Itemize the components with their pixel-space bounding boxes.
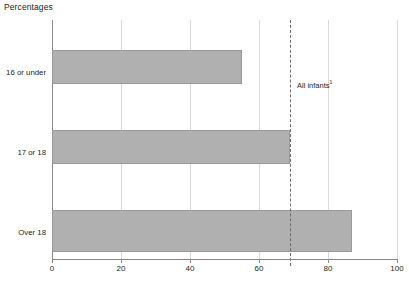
bar-track-over-18 bbox=[52, 210, 397, 252]
plot-area: All infants1 bbox=[52, 20, 397, 260]
category-label-16-or-under: 16 or under bbox=[6, 68, 46, 77]
xtick-label-20: 20 bbox=[117, 264, 126, 273]
category-label-17-or-18: 17 or 18 bbox=[17, 148, 46, 157]
x-axis-tick-labels: 0 20 40 60 80 100 bbox=[52, 264, 397, 280]
xtick-label-40: 40 bbox=[186, 264, 195, 273]
bar-16-or-under bbox=[52, 50, 242, 84]
x-axis-line bbox=[52, 259, 398, 260]
tickmark-20 bbox=[121, 259, 122, 263]
xtick-label-60: 60 bbox=[255, 264, 264, 273]
bar-track-16-or-under bbox=[52, 50, 397, 84]
bar-track-17-or-18 bbox=[52, 130, 397, 164]
tickmark-0 bbox=[52, 259, 53, 263]
bar-over-18 bbox=[52, 210, 352, 252]
bar-17-or-18 bbox=[52, 130, 290, 164]
tickmark-80 bbox=[328, 259, 329, 263]
all-infants-reference-label: All infants1 bbox=[297, 79, 332, 90]
chart-title: Percentages bbox=[4, 2, 53, 12]
xtick-label-100: 100 bbox=[390, 264, 403, 273]
gridline-100 bbox=[397, 20, 398, 260]
category-label-over-18: Over 18 bbox=[18, 228, 46, 237]
category-axis-labels: 16 or under 17 or 18 Over 18 bbox=[0, 20, 46, 260]
tickmark-40 bbox=[190, 259, 191, 263]
xtick-label-80: 80 bbox=[324, 264, 333, 273]
all-infants-reference-line bbox=[290, 20, 291, 266]
all-infants-footnote-marker: 1 bbox=[330, 79, 333, 85]
all-infants-label-text: All infants bbox=[297, 81, 330, 90]
bar-chart: Percentages 16 or under 17 or 18 Over 18… bbox=[0, 0, 409, 285]
xtick-label-0: 0 bbox=[50, 264, 54, 273]
tickmark-60 bbox=[259, 259, 260, 263]
tickmark-100 bbox=[397, 259, 398, 263]
